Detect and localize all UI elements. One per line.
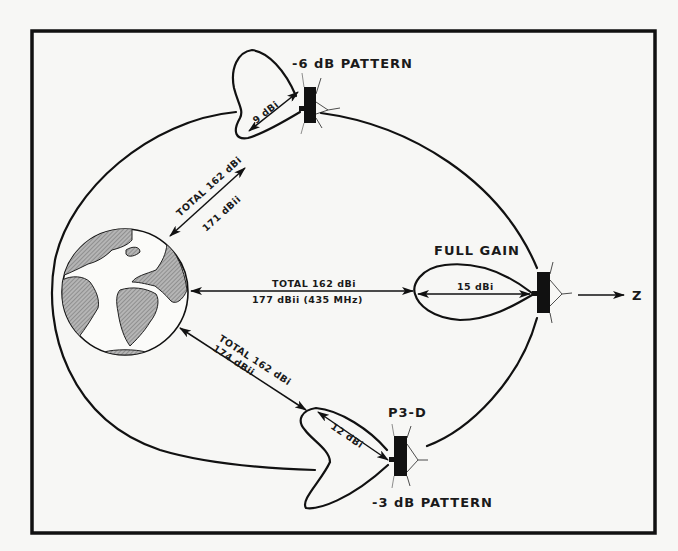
gain-label-apogee: 15 dBi — [457, 281, 494, 292]
pattern-label-bottom: -3 dB PATTERN — [372, 495, 493, 510]
antenna-pattern-apogee — [414, 264, 532, 320]
pattern-label-apogee: FULL GAIN — [434, 243, 520, 258]
link-isotropic-apogee: 177 dBii (435 MHz) — [252, 294, 363, 305]
antenna-pattern-top — [233, 50, 300, 138]
antenna-pattern-bottom — [301, 408, 388, 508]
z-axis-label: Z — [632, 288, 642, 303]
spacecraft-top — [299, 73, 340, 134]
spacecraft-name-label: P3-D — [388, 405, 427, 420]
link-isotropic-top: 171 dBii — [200, 193, 243, 233]
pattern-label-top: -6 dB PATTERN — [292, 56, 413, 71]
gain-label-top: 9 dBi — [250, 99, 280, 126]
spacecraft-bottom — [389, 424, 428, 488]
earth-globe — [62, 226, 188, 355]
link-total-apogee: TOTAL 162 dBi — [272, 278, 356, 289]
spacecraft-apogee — [532, 262, 572, 323]
orbit-link-diagram: 9 dBi TOTAL 162 dBi 171 dBii -6 dB PATTE… — [0, 0, 678, 551]
